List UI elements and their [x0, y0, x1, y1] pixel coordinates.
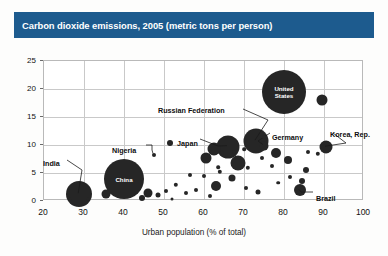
- gridline-horizontal: [44, 117, 362, 118]
- bubble-united-states[interactable]: [262, 70, 306, 114]
- x-tick-label: 40: [108, 207, 138, 217]
- bubble-point[interactable]: [316, 152, 320, 156]
- y-tick-label: 0: [10, 196, 36, 205]
- bubble-point[interactable]: [156, 192, 161, 197]
- bubble-point[interactable]: [201, 153, 212, 164]
- gridline-vertical: [244, 61, 245, 199]
- bubble-point[interactable]: [232, 150, 236, 154]
- x-tick-label: 100: [348, 207, 378, 217]
- bubble-point[interactable]: [171, 197, 174, 200]
- bubble-point[interactable]: [260, 156, 264, 160]
- y-tick-label: 20: [10, 84, 36, 93]
- callout-label-japan: Japan: [177, 139, 198, 148]
- gridline-vertical: [84, 61, 85, 199]
- japan-marker-dot: [167, 140, 173, 146]
- gridline-horizontal: [44, 145, 362, 146]
- callout-label-nigeria: Nigeria: [112, 146, 136, 155]
- y-tick-label: 15: [10, 112, 36, 121]
- bubble-germany[interactable]: [260, 141, 269, 150]
- bubble-point[interactable]: [256, 190, 261, 195]
- callout-label-india: India: [43, 159, 60, 168]
- chart-title-banner: Carbon dioxide emissions, 2005 (metric t…: [14, 12, 374, 38]
- bubble-point[interactable]: [276, 181, 280, 185]
- y-tick-label: 10: [10, 140, 36, 149]
- bubble-point[interactable]: [246, 166, 250, 170]
- bubble-nigeria[interactable]: [152, 153, 156, 157]
- x-tick-label: 30: [68, 207, 98, 217]
- bubble-point[interactable]: [288, 175, 292, 179]
- x-tick-label: 20: [28, 207, 58, 217]
- bubble-point[interactable]: [208, 194, 212, 198]
- x-tick-label: 60: [188, 207, 218, 217]
- x-tick-label: 80: [268, 207, 298, 217]
- x-tick-label: 70: [228, 207, 258, 217]
- callout-label-russian-federation: Russian Federation: [158, 106, 225, 115]
- bubble-point[interactable]: [194, 188, 198, 192]
- bubble-point[interactable]: [303, 167, 309, 173]
- callout-label-korea-rep: Korea, Rep.: [330, 130, 370, 139]
- y-tick-label: 5: [10, 168, 36, 177]
- bubble-point[interactable]: [102, 189, 111, 198]
- bubble-point[interactable]: [271, 148, 281, 158]
- bubble-brazil[interactable]: [294, 184, 306, 196]
- bubble-point[interactable]: [284, 156, 292, 164]
- gridline-horizontal: [44, 89, 362, 90]
- x-tick-label: 90: [308, 207, 338, 217]
- bubble-point[interactable]: [188, 173, 192, 177]
- bubble-point[interactable]: [139, 195, 145, 201]
- bubble-india[interactable]: [66, 181, 92, 207]
- bubble-point[interactable]: [231, 155, 246, 170]
- bubble-point[interactable]: [211, 181, 221, 191]
- bubble-point[interactable]: [87, 197, 90, 200]
- bubble-point[interactable]: [242, 147, 246, 151]
- plot-area: United StatesChina: [43, 60, 363, 200]
- bubble-point[interactable]: [244, 186, 248, 190]
- bubble-point[interactable]: [317, 95, 328, 106]
- page-title: Carbon dioxide emissions, 2005 (metric t…: [14, 20, 272, 31]
- chart-figure: Carbon dioxide emissions, 2005 (metric t…: [0, 0, 388, 256]
- bubble-point[interactable]: [164, 189, 168, 193]
- y-tick-label: 25: [10, 56, 36, 65]
- bubble-point[interactable]: [229, 175, 236, 182]
- bubble-point[interactable]: [174, 183, 178, 187]
- x-tick-label: 50: [148, 207, 178, 217]
- x-axis-title: Urban population (% of total): [0, 228, 388, 237]
- bubble-point[interactable]: [216, 166, 220, 170]
- gridline-vertical: [324, 61, 325, 199]
- y-tick-mark: [40, 200, 43, 201]
- bubble-point[interactable]: [69, 197, 72, 200]
- bubble-point[interactable]: [299, 178, 305, 184]
- bubble-point[interactable]: [184, 191, 188, 195]
- callout-label-brazil: Brazil: [316, 194, 336, 203]
- bubble-point[interactable]: [270, 164, 274, 168]
- bubble-korea-rep[interactable]: [320, 141, 333, 154]
- germany-marker-dot: [262, 135, 266, 139]
- bubble-point[interactable]: [202, 174, 206, 178]
- callout-label-germany: Germany: [272, 133, 303, 142]
- bubble-point[interactable]: [306, 150, 310, 154]
- gridline-vertical: [164, 61, 165, 199]
